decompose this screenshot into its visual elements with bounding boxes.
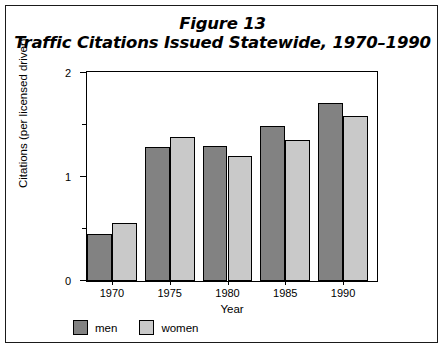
y-axis-minor-tick: [82, 124, 87, 125]
legend-swatch-women: [139, 320, 154, 335]
y-axis-tick-label: 0: [65, 275, 71, 287]
plot-area: 01219701975198019851990: [86, 71, 378, 282]
figure-border: Figure 13 Traffic Citations Issued State…: [5, 5, 438, 343]
chart-legend: menwomen: [73, 320, 220, 335]
bar-women-1990: [343, 116, 368, 281]
bar-women-1975: [170, 137, 195, 281]
legend-swatch-men: [73, 320, 88, 335]
x-axis-tick-label: 1975: [157, 287, 181, 299]
x-axis-tick: [112, 281, 113, 285]
bar-men-1975: [145, 147, 170, 281]
y-axis-tick-label: 1: [65, 171, 71, 183]
legend-item-men: men: [73, 320, 117, 335]
x-axis-tick: [285, 281, 286, 285]
y-axis-title: Citations (per licensed driver): [17, 38, 29, 188]
bar-men-1970: [87, 234, 112, 281]
x-axis-title: Year: [86, 303, 378, 315]
plot-inner: 01219701975198019851990: [87, 72, 377, 281]
y-axis-minor-tick: [82, 228, 87, 229]
x-axis-tick-label: 1985: [273, 287, 297, 299]
x-axis-tick-label: 1970: [100, 287, 124, 299]
y-axis-tick: 0: [80, 280, 87, 281]
x-axis-tick: [228, 281, 229, 285]
bar-men-1985: [260, 126, 285, 281]
x-axis-tick: [170, 281, 171, 285]
x-axis-tick-label: 1990: [331, 287, 355, 299]
y-axis-tick: 2: [80, 72, 87, 73]
bar-men-1980: [203, 146, 228, 281]
legend-item-women: women: [139, 320, 198, 335]
legend-label: men: [95, 322, 117, 334]
bar-men-1990: [318, 103, 343, 281]
y-axis-tick-label: 2: [65, 67, 71, 79]
y-axis-tick: 1: [80, 176, 87, 177]
bar-chart: Citations (per licensed driver) 01219701…: [6, 6, 439, 344]
bar-women-1985: [285, 140, 310, 281]
legend-label: women: [161, 322, 198, 334]
bar-women-1970: [112, 223, 137, 281]
bar-women-1980: [228, 156, 253, 281]
x-axis-tick: [343, 281, 344, 285]
x-axis-tick-label: 1980: [215, 287, 239, 299]
